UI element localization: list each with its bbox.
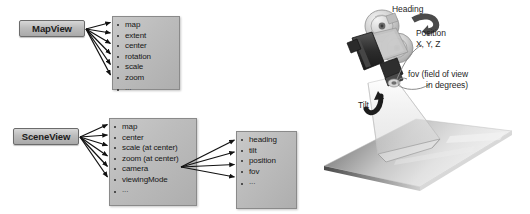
annotation-tilt: Tilt bbox=[358, 100, 369, 111]
property-row: fov bbox=[237, 167, 296, 178]
property-label: camera bbox=[122, 164, 148, 175]
property-label: fov bbox=[249, 167, 259, 178]
property-label: heading bbox=[249, 135, 277, 146]
property-box-sceneview: map center scale (at center) zoom (at ce… bbox=[109, 118, 197, 206]
camera-illustration: Heading Position X, Y, Z fov (field of v… bbox=[300, 0, 530, 214]
bullet-icon bbox=[117, 56, 119, 58]
class-box-sceneview-label: SceneView bbox=[22, 131, 71, 142]
bullet-icon bbox=[241, 171, 243, 173]
bullet-icon bbox=[114, 191, 116, 193]
bullet-icon bbox=[241, 160, 243, 162]
property-label: tilt bbox=[249, 146, 257, 157]
property-row: viewingMode bbox=[110, 175, 196, 186]
property-row: map bbox=[113, 20, 179, 31]
property-row: position bbox=[237, 156, 296, 167]
property-label: position bbox=[249, 156, 276, 167]
property-box-camera: heading tilt position fov ... bbox=[236, 131, 297, 209]
property-label: zoom (at center) bbox=[122, 154, 179, 165]
bullet-icon bbox=[114, 158, 116, 160]
property-row: center bbox=[110, 133, 196, 144]
bullet-icon bbox=[114, 179, 116, 181]
bullet-icon bbox=[117, 77, 119, 79]
bullet-icon bbox=[114, 126, 116, 128]
annotation-fov: fov (field of view in degrees) bbox=[408, 69, 468, 90]
property-label: ... bbox=[122, 185, 128, 196]
property-row: heading bbox=[237, 135, 296, 146]
annotation-heading: Heading bbox=[392, 4, 423, 15]
sceneview-connector-group bbox=[80, 125, 108, 178]
property-row: ... bbox=[237, 179, 296, 190]
property-row-camera: camera bbox=[110, 164, 196, 175]
property-row: rotation bbox=[113, 52, 179, 63]
bullet-icon bbox=[117, 66, 119, 68]
diagram-canvas: MapView SceneView map extent center rota… bbox=[0, 0, 530, 214]
property-row: ... bbox=[110, 187, 196, 198]
property-row: center bbox=[113, 41, 179, 52]
property-label: ... bbox=[125, 83, 131, 94]
property-label: center bbox=[125, 41, 147, 52]
class-box-mapview-label: MapView bbox=[32, 23, 72, 34]
property-row: map bbox=[110, 122, 196, 133]
movie-camera-icon bbox=[347, 10, 413, 87]
illustration-svg bbox=[300, 0, 530, 214]
annotation-position-line1: Position bbox=[416, 28, 446, 38]
bullet-icon bbox=[117, 89, 119, 91]
property-row: ... bbox=[113, 85, 179, 96]
bullet-icon bbox=[114, 168, 116, 170]
bullet-icon bbox=[117, 35, 119, 37]
property-label: viewingMode bbox=[122, 175, 168, 186]
annotation-position-line2: X, Y, Z bbox=[416, 39, 440, 49]
property-label: map bbox=[122, 122, 137, 133]
annotation-fov-line2: in degrees) bbox=[408, 80, 468, 91]
annotation-fov-line1: fov (field of view bbox=[408, 69, 468, 79]
class-box-mapview[interactable]: MapView bbox=[19, 20, 85, 37]
bullet-icon bbox=[241, 183, 243, 185]
property-row: scale (at center) bbox=[110, 143, 196, 154]
property-row: scale bbox=[113, 62, 179, 73]
property-label: scale (at center) bbox=[122, 143, 178, 154]
mapview-connector-group bbox=[86, 23, 111, 76]
property-row: zoom bbox=[113, 73, 179, 84]
property-label: center bbox=[122, 133, 144, 144]
bullet-icon bbox=[117, 45, 119, 47]
property-label: scale bbox=[125, 62, 143, 73]
property-row: zoom (at center) bbox=[110, 154, 196, 165]
bullet-icon bbox=[114, 147, 116, 149]
bullet-icon bbox=[241, 150, 243, 152]
property-label: zoom bbox=[125, 73, 144, 84]
bullet-icon bbox=[241, 139, 243, 141]
property-label: ... bbox=[249, 177, 255, 188]
bullet-icon bbox=[114, 137, 116, 139]
property-box-mapview: map extent center rotation scale zoom ..… bbox=[112, 16, 180, 90]
property-label: map bbox=[125, 20, 140, 31]
property-label: rotation bbox=[125, 52, 151, 63]
property-row: tilt bbox=[237, 146, 296, 157]
class-box-sceneview[interactable]: SceneView bbox=[13, 128, 79, 145]
annotation-position: Position X, Y, Z bbox=[416, 28, 446, 49]
bullet-icon bbox=[117, 24, 119, 26]
property-label: extent bbox=[125, 31, 146, 42]
property-row: extent bbox=[113, 31, 179, 42]
